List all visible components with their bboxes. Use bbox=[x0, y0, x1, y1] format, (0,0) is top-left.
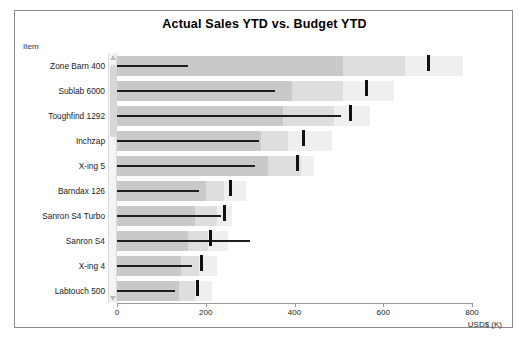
budget-target-marker bbox=[200, 255, 203, 271]
budget-target-marker bbox=[365, 80, 368, 96]
actual-sales-bar bbox=[117, 240, 250, 242]
bullet-track bbox=[117, 131, 332, 151]
budget-target-marker bbox=[196, 280, 199, 296]
x-axis-title: USD$ (K) bbox=[468, 320, 502, 329]
bullet-track bbox=[117, 106, 370, 126]
plot-area: Zone Barn 400Sublab 6000Toughfind 1292In… bbox=[15, 53, 514, 303]
chart-row: X-ing 4 bbox=[15, 253, 514, 279]
actual-sales-bar bbox=[117, 265, 192, 267]
budget-target-marker bbox=[229, 180, 232, 196]
scrollbar-thumb[interactable] bbox=[110, 65, 117, 137]
budget-target-marker bbox=[349, 105, 352, 121]
budget-target-marker bbox=[302, 130, 305, 146]
actual-sales-bar bbox=[117, 290, 175, 292]
bullet-track bbox=[117, 156, 314, 176]
axis-tick bbox=[383, 303, 384, 307]
row-label: X-ing 4 bbox=[15, 253, 105, 279]
axis-tick-label: 600 bbox=[377, 308, 390, 317]
axis-tick-label: 800 bbox=[465, 308, 478, 317]
chart-row: X-ing 5 bbox=[15, 153, 514, 179]
row-label: Sanron S4 Turbo bbox=[15, 203, 105, 229]
row-label: Sublab 6000 bbox=[15, 78, 105, 104]
row-label: Zone Barn 400 bbox=[15, 53, 105, 79]
axis-tick-label: 0 bbox=[115, 308, 119, 317]
chart-frame: Actual Sales YTD vs. Budget YTD Item Zon… bbox=[14, 10, 513, 328]
chart-title: Actual Sales YTD vs. Budget YTD bbox=[15, 17, 514, 31]
item-column-header: Item bbox=[23, 42, 39, 51]
row-label: Sanron S4 bbox=[15, 228, 105, 254]
axis-tick bbox=[472, 303, 473, 307]
actual-sales-bar bbox=[117, 165, 255, 167]
scroll-down-button[interactable] bbox=[109, 294, 118, 303]
bullet-track bbox=[117, 181, 246, 201]
axis-tick bbox=[295, 303, 296, 307]
row-label: Toughfind 1292 bbox=[15, 103, 105, 129]
row-label: X-ing 5 bbox=[15, 153, 105, 179]
row-label: Inchzap bbox=[15, 128, 105, 154]
chart-row: Sublab 6000 bbox=[15, 78, 514, 104]
actual-sales-bar bbox=[117, 140, 259, 142]
chart-row: Barndax 126 bbox=[15, 178, 514, 204]
chart-row: Sanron S4 Turbo bbox=[15, 203, 514, 229]
row-label: Labtouch 500 bbox=[15, 278, 105, 304]
actual-sales-bar bbox=[117, 90, 275, 92]
actual-sales-bar bbox=[117, 115, 341, 117]
budget-target-marker bbox=[296, 155, 299, 171]
chart-row: Toughfind 1292 bbox=[15, 103, 514, 129]
actual-sales-bar bbox=[117, 65, 188, 67]
budget-target-marker bbox=[223, 205, 226, 221]
axis-tick bbox=[206, 303, 207, 307]
chart-row: Labtouch 500 bbox=[15, 278, 514, 304]
axis-tick bbox=[117, 303, 118, 307]
bullet-track bbox=[117, 231, 250, 251]
actual-sales-bar bbox=[117, 215, 221, 217]
chart-row: Inchzap bbox=[15, 128, 514, 154]
actual-sales-bar bbox=[117, 190, 199, 192]
triangle-up-icon bbox=[110, 55, 116, 60]
row-label: Barndax 126 bbox=[15, 178, 105, 204]
scroll-up-button[interactable] bbox=[109, 53, 118, 62]
axis-tick-label: 200 bbox=[199, 308, 212, 317]
budget-target-marker bbox=[427, 55, 430, 71]
bullet-track bbox=[117, 81, 394, 101]
vertical-scrollbar[interactable] bbox=[108, 53, 117, 303]
bullet-track bbox=[117, 206, 232, 226]
triangle-down-icon bbox=[110, 296, 116, 301]
axis-tick-label: 400 bbox=[288, 308, 301, 317]
bullet-track bbox=[117, 56, 463, 76]
x-axis: 0200400600800 USD$ (K) bbox=[15, 303, 514, 329]
chart-row: Zone Barn 400 bbox=[15, 53, 514, 79]
chart-row: Sanron S4 bbox=[15, 228, 514, 254]
budget-target-marker bbox=[209, 230, 212, 246]
